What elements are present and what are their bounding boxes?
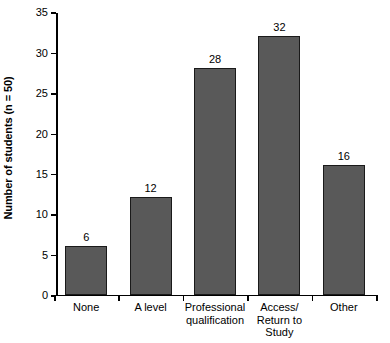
y-tick-15: 15 — [51, 174, 56, 176]
y-tick-5: 5 — [51, 255, 56, 257]
y-tick-label-35: 35 — [36, 4, 48, 20]
bar-value-label: 16 — [338, 150, 350, 163]
category-label: Access/ Return to Study — [247, 301, 311, 339]
plot-area: 05101520253035 612283216 — [56, 13, 378, 296]
bar-value-label: 32 — [273, 21, 285, 34]
y-tick-label-15: 15 — [36, 166, 48, 182]
bar-chart: Number of students (n = 50) 051015202530… — [0, 0, 390, 343]
bar-value-label: 12 — [144, 182, 156, 195]
bar: 32 — [258, 36, 300, 295]
bar-value-label: 28 — [209, 53, 221, 66]
y-axis-title: Number of students (n = 50) — [0, 0, 16, 296]
x-axis-line — [56, 295, 378, 297]
bar: 28 — [194, 68, 236, 294]
y-tick-35: 35 — [51, 12, 56, 14]
y-tick-label-25: 25 — [36, 85, 48, 101]
bar: 6 — [65, 246, 107, 295]
category-label: A level — [118, 301, 182, 314]
bar: 16 — [323, 165, 365, 294]
y-tick-label-5: 5 — [42, 247, 48, 263]
y-tick-label-20: 20 — [36, 126, 48, 142]
bar-value-label: 6 — [83, 231, 89, 244]
y-tick-label-0: 0 — [42, 287, 48, 303]
category-label: Other — [312, 301, 376, 314]
y-tick-label-30: 30 — [36, 45, 48, 61]
category-label: Professional qualification — [183, 301, 247, 326]
y-tick-label-10: 10 — [36, 206, 48, 222]
y-tick-25: 25 — [51, 93, 56, 95]
y-tick-20: 20 — [51, 134, 56, 136]
x-tick — [376, 296, 378, 301]
bar: 12 — [130, 197, 172, 294]
category-label: None — [54, 301, 118, 314]
y-tick-30: 30 — [51, 53, 56, 55]
y-tick-10: 10 — [51, 214, 56, 216]
y-axis-line — [56, 13, 58, 296]
